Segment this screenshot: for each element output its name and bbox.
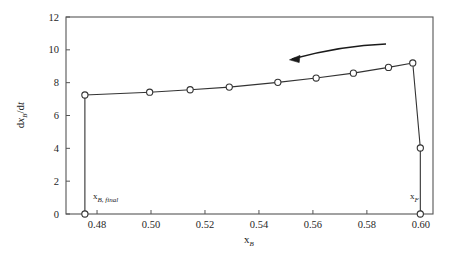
x-tick-label: 0.60 [412,219,430,230]
y-tick-label: 2 [54,176,59,187]
x-tick-label: 0.50 [142,219,160,230]
data-point-marker [313,75,319,81]
data-point-marker [350,70,356,76]
figure-background [0,0,454,257]
data-point-marker [275,79,281,85]
x-tick-label: 0.58 [358,219,376,230]
y-tick-label: 0 [54,209,59,220]
data-point-marker [417,211,423,217]
y-tick-label: 6 [54,110,59,121]
y-tick-label: 8 [54,77,59,88]
x-f-sub: F [414,196,420,204]
data-point-marker [385,64,391,70]
y-tick-label: 10 [49,44,60,55]
data-point-marker [187,87,193,93]
data-point-marker [417,145,423,151]
x-axis-title-sub: B [250,240,255,248]
x-tick-label: 0.54 [250,219,269,230]
y-tick-label: 4 [54,143,60,154]
x-tick-label: 0.56 [304,219,322,230]
data-point-marker [226,84,232,90]
x-tick-label: 0.52 [196,219,214,230]
x-tick-label: 0.48 [88,219,106,230]
data-point-marker [82,92,88,98]
data-point-marker [82,211,88,217]
data-point-marker [410,60,416,66]
data-point-marker [147,89,153,95]
y-tick-label: 12 [49,12,60,23]
chart-figure: 024681012 0.480.500.520.540.560.580.60 x… [0,0,454,257]
x-b-final-sub: B, final [98,196,119,204]
